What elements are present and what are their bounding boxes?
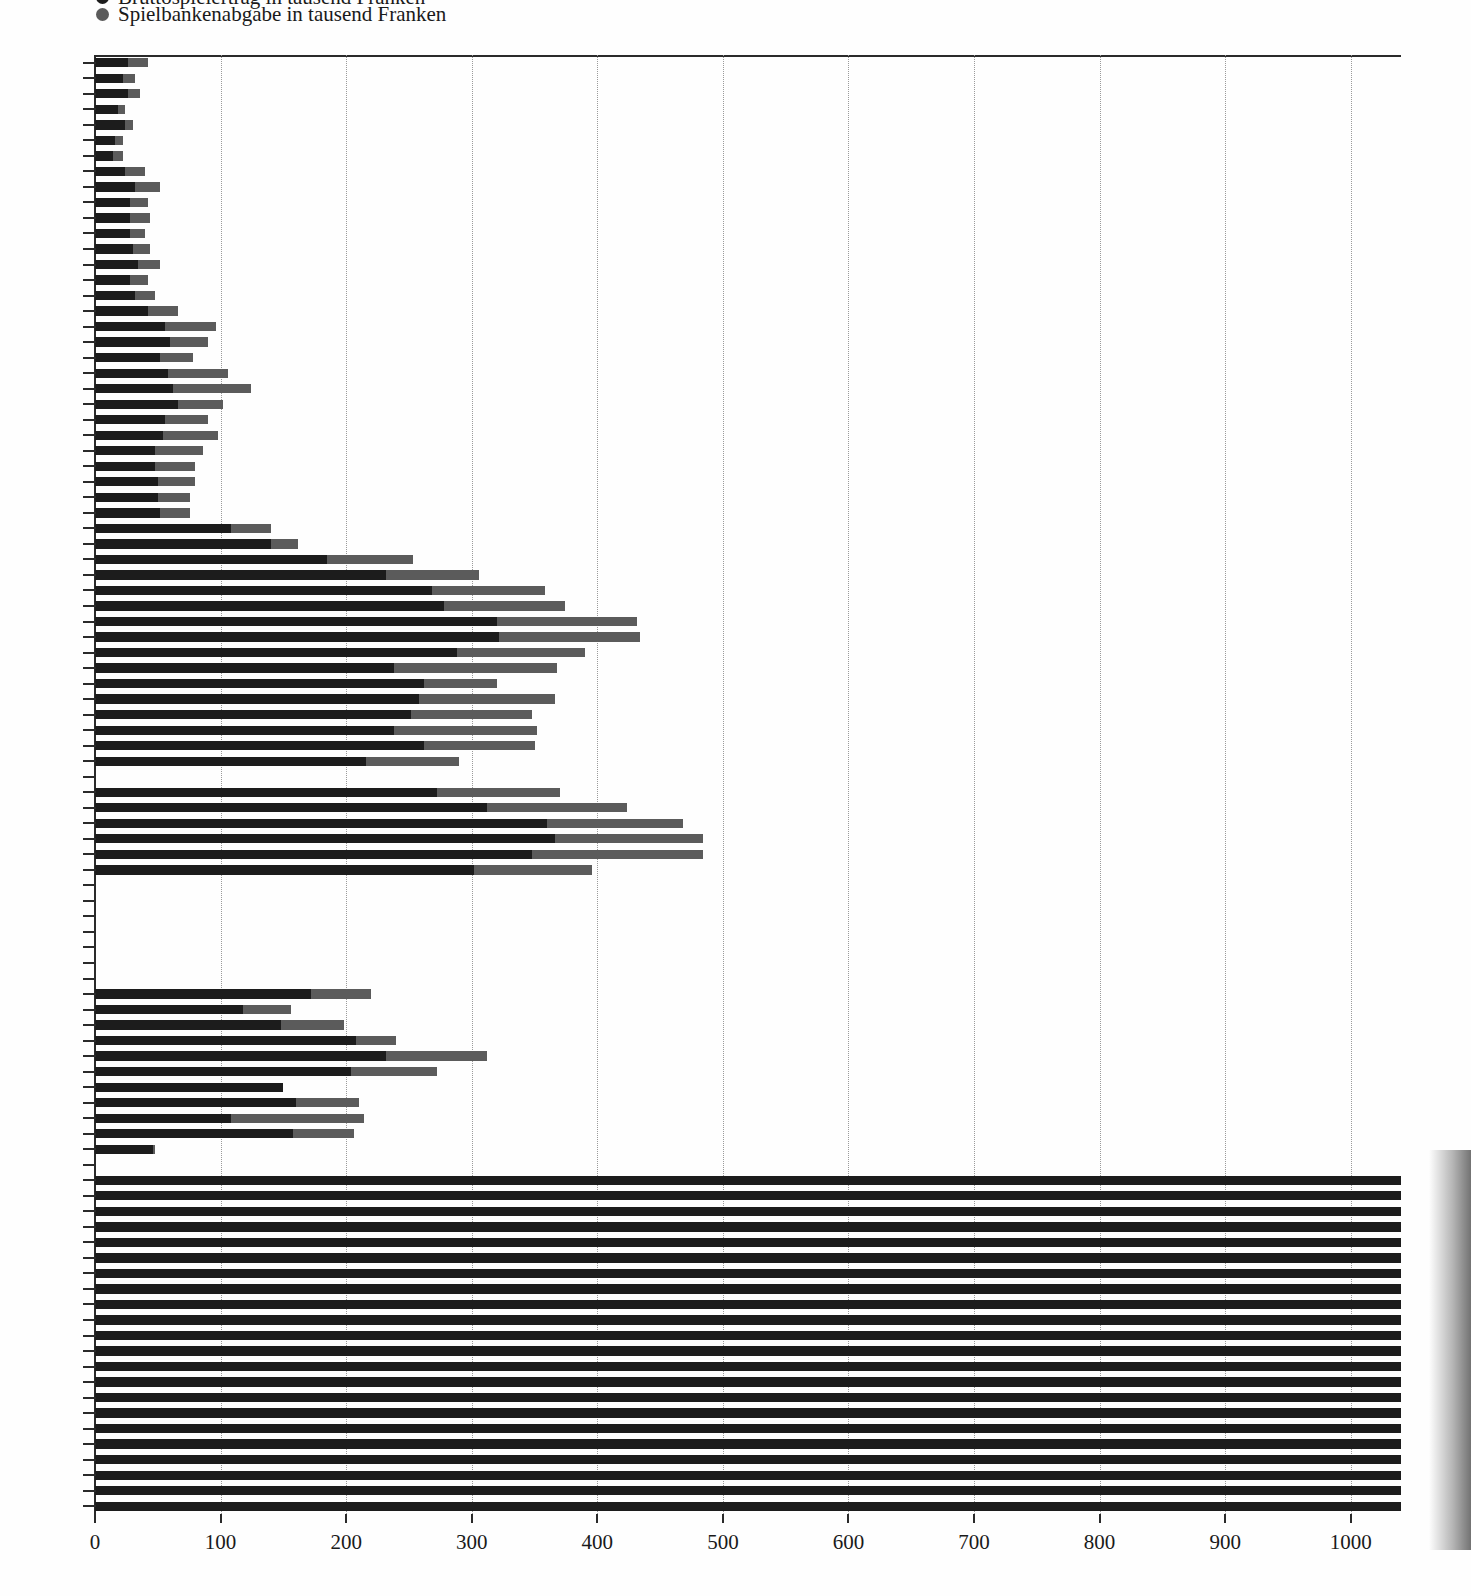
y-tick-1968 [83,652,96,654]
y-tick-1972 [83,714,96,716]
bar-segment-spielbankenabgabe [128,89,141,98]
bar-row [95,974,1401,983]
y-tick-1932 [83,93,96,95]
bar-row [95,1083,1401,1092]
y-tick-2022 [83,1490,96,1492]
stacked-bar-1956 [95,462,195,471]
bar-row [95,58,1401,67]
stacked-bar-1964 [95,586,545,595]
stacked-bar-1955 [95,446,203,455]
bar-row [95,1408,1401,1417]
bar-segment-bruttospielertrag [95,260,138,269]
bar-segment-bruttospielertrag [95,834,555,843]
stacked-bar-2020 [95,1455,1401,1464]
bar-segment-bruttospielertrag [95,710,411,719]
y-tick-2017 [83,1412,96,1414]
stacked-bar-1982 [95,865,592,874]
bar-segment-spielbankenabgabe [351,1067,436,1076]
bar-row [95,1346,1401,1355]
y-tick-1949 [83,357,96,359]
stacked-bar-1948 [95,337,208,346]
stacked-bar-2006 [95,1238,1401,1247]
y-tick-1993 [83,1040,96,1042]
stacked-bar-1995 [95,1067,437,1076]
bar-segment-bruttospielertrag [95,617,497,626]
bar-row [95,1005,1401,1014]
x-axis-label-0: 0 [90,1532,101,1553]
bar-row [95,710,1401,719]
bar-segment-spielbankenabgabe [424,679,497,688]
y-tick-1934 [83,124,96,126]
stacked-bar-1990 [95,989,371,998]
bar-segment-bruttospielertrag [95,1362,1401,1371]
bar-row [95,1098,1401,1107]
bar-segment-bruttospielertrag [95,1067,351,1076]
bar-row [95,1471,1401,1480]
bar-row [95,1284,1401,1293]
bar-segment-spielbankenabgabe [296,1098,359,1107]
bar-segment-spielbankenabgabe [311,989,371,998]
y-tick-1981 [83,853,96,855]
y-tick-1947 [83,326,96,328]
bar-segment-bruttospielertrag [95,1331,1401,1340]
bar-row [95,1269,1401,1278]
y-tick-1976 [83,776,96,778]
y-tick-1996 [83,1086,96,1088]
bar-segment-bruttospielertrag [95,803,487,812]
bar-segment-bruttospielertrag [95,524,231,533]
bar-segment-bruttospielertrag [95,198,130,207]
bar-row [95,105,1401,114]
bar-segment-bruttospielertrag [95,1036,356,1045]
bar-segment-spielbankenabgabe [170,337,208,346]
y-tick-1974 [83,745,96,747]
bar-row [95,632,1401,641]
bar-segment-spielbankenabgabe [118,105,126,114]
y-tick-1992 [83,1024,96,1026]
bar-row [95,431,1401,440]
bar-row [95,524,1401,533]
bar-segment-bruttospielertrag [95,850,532,859]
bar-segment-spielbankenabgabe [281,1020,344,1029]
stacked-bar-2011 [95,1315,1401,1324]
bar-segment-spielbankenabgabe [138,260,161,269]
stacked-bar-2000 [95,1145,155,1154]
bar-row [95,1191,1401,1200]
bar-row [95,927,1401,936]
bar-row [95,1238,1401,1247]
bar-segment-spielbankenabgabe [123,74,136,83]
y-tick-1980 [83,838,96,840]
bar-row [95,1315,1401,1324]
bar-segment-bruttospielertrag [95,1051,386,1060]
bar-row [95,1036,1401,1045]
y-tick-1945 [83,295,96,297]
bar-segment-spielbankenabgabe [411,710,532,719]
bar-segment-bruttospielertrag [95,1253,1401,1262]
bar-segment-spielbankenabgabe [356,1036,396,1045]
y-tick-1955 [83,450,96,452]
bar-segment-bruttospielertrag [95,229,130,238]
y-tick-1939 [83,201,96,203]
y-tick-1944 [83,279,96,281]
y-tick-2001 [83,1164,96,1166]
bar-segment-bruttospielertrag [95,493,158,502]
bar-row [95,353,1401,362]
y-tick-1997 [83,1102,96,1104]
stacked-bar-2023 [95,1502,1401,1511]
bar-segment-spielbankenabgabe [148,306,178,315]
stacked-bar-1940 [95,213,150,222]
stacked-bar-1951 [95,384,251,393]
bar-segment-bruttospielertrag [95,1486,1401,1495]
x-tick-800 [1099,1514,1101,1523]
bar-segment-bruttospielertrag [95,291,135,300]
bar-segment-bruttospielertrag [95,508,160,517]
stacked-bar-1997 [95,1098,359,1107]
bar-segment-spielbankenabgabe [130,275,148,284]
bar-segment-bruttospielertrag [95,431,163,440]
x-tick-400 [596,1514,598,1523]
y-tick-1985 [83,915,96,917]
stacked-bar-1949 [95,353,193,362]
bar-segment-spielbankenabgabe [499,632,640,641]
stacked-bar-1946 [95,306,178,315]
bar-row [95,306,1401,315]
y-tick-2007 [83,1257,96,1259]
